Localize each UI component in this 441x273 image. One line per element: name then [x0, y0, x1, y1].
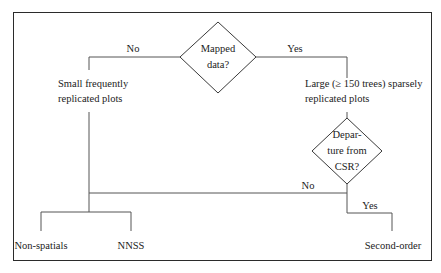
decision-text-line: ture from — [317, 143, 377, 159]
decision-label-csr: Depar- ture from CSR? — [317, 127, 377, 175]
node-text-line: replicated plots — [305, 91, 423, 106]
connector-yes-mapped — [256, 57, 347, 78]
outcome-second-order: Second-order — [358, 238, 428, 253]
node-small-plots: Small frequently replicated plots — [58, 76, 128, 106]
branch-label-no-top: No — [118, 41, 148, 56]
decision-label-mapped-data: Mapped data? — [188, 41, 248, 73]
decision-text-line: Mapped — [188, 41, 248, 57]
decision-text-line: Depar- — [317, 127, 377, 143]
branch-label-yes-csr: Yes — [358, 198, 382, 213]
connector-yes-csr — [347, 213, 392, 231]
node-text-line: replicated plots — [58, 91, 128, 106]
decision-text-line: CSR? — [317, 159, 377, 175]
connector-no-mapped — [89, 57, 180, 70]
node-large-plots: Large (≥ 150 trees) sparsely replicated … — [305, 76, 423, 106]
decision-text-line: data? — [188, 57, 248, 73]
outcome-non-spatials: Non-spatials — [11, 238, 71, 253]
branch-label-yes-top: Yes — [280, 41, 310, 56]
connector-split-left — [41, 212, 131, 231]
branch-label-no-csr: No — [296, 178, 320, 193]
node-text-line: Small frequently — [58, 76, 128, 91]
outcome-nnss: NNSS — [111, 238, 151, 253]
node-text-line: Large (≥ 150 trees) sparsely — [305, 76, 423, 91]
